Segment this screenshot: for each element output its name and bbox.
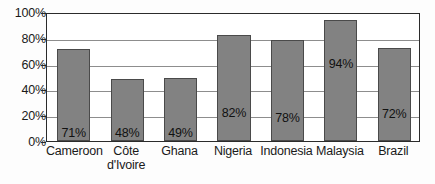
x-axis-category-label-line: Cameroon (46, 144, 99, 158)
bar-value-label: 94% (325, 57, 356, 71)
bar: 48% (111, 79, 144, 141)
bar-value-label: 71% (58, 126, 89, 140)
y-axis-tick-label: 100% (2, 6, 46, 20)
bar-value-label: 72% (379, 107, 410, 121)
bar: 72% (378, 48, 411, 141)
bar: 71% (57, 49, 90, 141)
bar: 94% (324, 20, 357, 141)
x-axis-category-label-line: Ghana (153, 144, 206, 158)
x-axis-category-labels: CameroonCôted'IvoireGhanaNigeriaIndonesi… (46, 144, 420, 184)
x-axis-category-label-line: d'Ivoire (99, 158, 152, 172)
x-axis-category-label: Malaysia (313, 144, 366, 158)
plot-area: 71%48%49%82%78%94%72% (46, 13, 420, 142)
bar-value-label: 48% (112, 126, 143, 140)
x-axis-category-label-line: Malaysia (313, 144, 366, 158)
bar-value-label: 78% (272, 111, 303, 125)
y-axis-tick-label: 60% (2, 58, 46, 72)
y-axis-tick-label: 20% (2, 109, 46, 123)
bar-value-label: 82% (218, 106, 249, 120)
y-axis-tick-mark (41, 142, 46, 143)
x-axis-category-label: Brazil (367, 144, 420, 158)
x-axis-category-label: Nigeria (206, 144, 259, 158)
y-axis-tick-label: 80% (2, 32, 46, 46)
x-axis-category-label: Ghana (153, 144, 206, 158)
bar: 82% (217, 35, 250, 141)
bar-value-label: 49% (165, 126, 196, 140)
bar: 78% (271, 40, 304, 141)
x-axis-category-label-line: Nigeria (206, 144, 259, 158)
x-axis-category-label-line: Côte (99, 144, 152, 158)
x-axis-category-label: Indonesia (260, 144, 313, 158)
x-axis-category-label: Côted'Ivoire (99, 144, 152, 172)
y-axis-tick-label: 40% (2, 83, 46, 97)
y-axis-tick-label: 0% (2, 135, 46, 149)
x-axis-category-label-line: Brazil (367, 144, 420, 158)
y-axis: 0%20%40%60%80%100% (0, 13, 46, 142)
x-axis-category-label-line: Indonesia (260, 144, 313, 158)
x-axis-category-label: Cameroon (46, 144, 99, 158)
bar: 49% (164, 78, 197, 141)
bar-chart: 0%20%40%60%80%100% 71%48%49%82%78%94%72%… (0, 0, 435, 184)
